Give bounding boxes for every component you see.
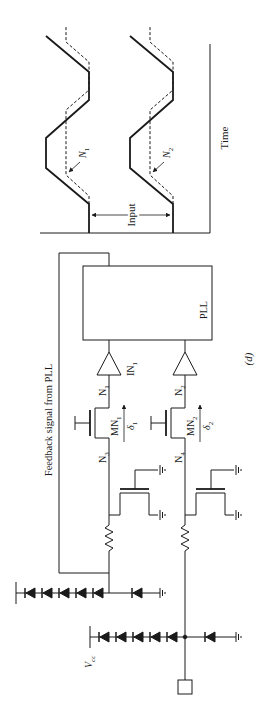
in1-label: IN1 [125,361,139,376]
feedback-label: Feedback signal from PLL [43,364,54,476]
figure-label: (d) [242,352,255,365]
pll-label: PLL [198,301,209,319]
circuit-diagram: Time Input N1 N2 [0,0,263,712]
delta2-label: δ2 [201,421,215,430]
waveform-1-dashed [66,26,89,204]
buffer-in1 [97,352,121,375]
mn2-label: MN2 [185,416,199,436]
pll-block [83,266,212,340]
resistor-2 [181,515,189,685]
waveform-1-solid [46,36,89,233]
vcc-label: Vcc [83,655,97,668]
junction-dot [183,635,187,639]
delta1-label: δ1 [125,421,139,430]
input-pad [178,680,192,694]
resistor-1 [105,515,113,573]
n1-label: N1 [77,147,91,159]
waveform-plot [40,26,210,233]
n1-pointer [69,162,80,172]
buffer-in2 [173,352,197,375]
time-label: Time [218,126,230,149]
n2-label: N2 [161,147,175,159]
waveform-2-dashed [150,26,173,204]
mn1-label: MN1 [109,416,123,436]
n2-pointer [153,162,164,172]
feedback-wire [59,253,109,573]
input-label: Input [125,203,137,226]
